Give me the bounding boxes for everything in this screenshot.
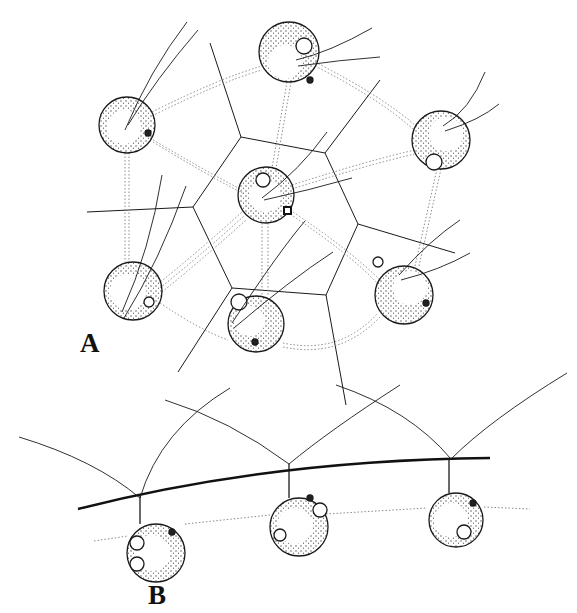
cell-a5: [104, 262, 162, 320]
cell-a6: [228, 294, 284, 352]
cell-b2: [270, 464, 328, 556]
panel-a-network: [87, 43, 455, 405]
panel-label-b: B: [148, 582, 166, 609]
cell-a7: [373, 257, 433, 324]
panel-b-flagella: [19, 373, 567, 498]
panel-a-cells: [99, 22, 470, 352]
cell-a2: [259, 22, 319, 83]
panel-b-cells: [127, 458, 483, 582]
cell-b1: [127, 496, 185, 582]
panel-label-a: A: [80, 330, 100, 357]
figure-canvas: A B: [0, 0, 577, 613]
illustration-svg: [0, 0, 577, 613]
cell-a3: [412, 111, 470, 170]
cell-b3: [429, 458, 483, 547]
